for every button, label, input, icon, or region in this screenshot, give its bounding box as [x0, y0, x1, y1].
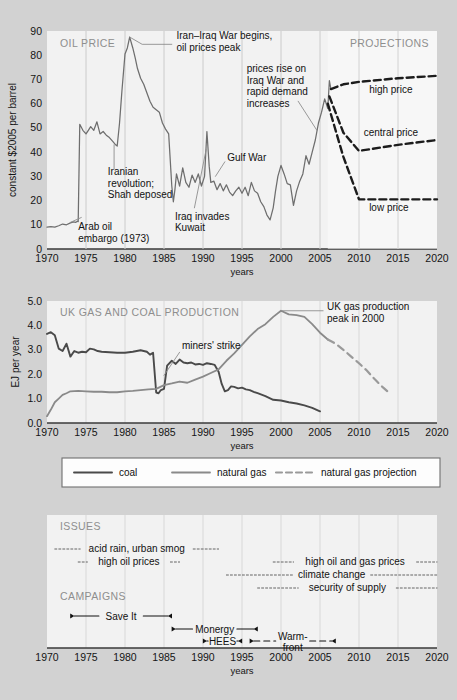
campaign-label-hees: HEES: [209, 636, 237, 647]
issue-label-security-of-supply: security of supply: [309, 582, 386, 593]
oil-price-x-axis-label: years: [230, 266, 253, 277]
issues-campaigns-panel-xtick-2005: 2005: [308, 651, 332, 663]
oil-price-panel-xtick-2020: 2020: [425, 252, 449, 264]
issues-campaigns-panel-xtick-1975: 1975: [74, 651, 98, 663]
issues-campaigns-panel-xtick-1970: 1970: [35, 651, 59, 663]
issues-campaigns-panel-xtick-2020: 2020: [425, 651, 449, 663]
prod-ytick-4.0: 4.0: [27, 319, 42, 331]
oil-price-panel-xtick-1985: 1985: [152, 252, 176, 264]
oil-ytick-20: 20: [30, 194, 42, 206]
uk-production-panel-xtick-2005: 2005: [308, 426, 332, 438]
annotation-central-price: central price: [364, 127, 419, 138]
oil-price-panel-xtick-1990: 1990: [191, 252, 215, 264]
issue-label-high-oil-prices: high oil prices: [98, 556, 159, 567]
oil-ytick-50: 50: [30, 121, 42, 133]
uk-production-panel-xtick-1975: 1975: [74, 426, 98, 438]
uk-production-panel-xtick-2010: 2010: [347, 426, 371, 438]
issues-campaigns-x-axis-label: years: [230, 665, 253, 676]
uk-production-x-axis-label: years: [230, 440, 253, 451]
prod-ytick-5.0: 5.0: [27, 295, 42, 307]
projection-region: [328, 31, 437, 249]
uk-production-y-axis-label: EJ per year: [10, 336, 21, 388]
uk-production-panel-xtick-1980: 1980: [113, 426, 137, 438]
issue-label-acid-rain-urban-smog: acid rain, urban smog: [89, 543, 185, 554]
annotation-low-price: low price: [369, 202, 409, 213]
projections-label: PROJECTIONS: [350, 37, 429, 49]
issues-campaigns-panel-xtick-1985: 1985: [152, 651, 176, 663]
oil-ytick-80: 80: [30, 49, 42, 61]
legend-label-natural-gas-projection: natural gas projection: [321, 467, 417, 478]
annotation-miners-strike: miners' strike: [182, 340, 241, 351]
uk-production-panel-xtick-1970: 1970: [35, 426, 59, 438]
prod-ytick-1.0: 1.0: [27, 392, 42, 404]
oil-ytick-10: 10: [30, 218, 42, 230]
oil-price-panel-xtick-2005: 2005: [308, 252, 332, 264]
uk-production-panel-xtick-1990: 1990: [191, 426, 215, 438]
uk-production-panel-xtick-1995: 1995: [230, 426, 254, 438]
uk-production-panel-xtick-2015: 2015: [386, 426, 410, 438]
figure-root: 0102030405060708090constant $2005 per ba…: [0, 0, 457, 700]
oil-price-y-axis-label: constant $2005 per barrel: [7, 83, 18, 197]
issues-campaigns-panel-xtick-1980: 1980: [113, 651, 137, 663]
campaign-label-monergy: Monergy: [195, 624, 234, 635]
oil-ytick-70: 70: [30, 73, 42, 85]
oil-price-panel-xtick-2015: 2015: [386, 252, 410, 264]
issues-campaigns-panel-xtick-1995: 1995: [230, 651, 254, 663]
oil-ytick-40: 40: [30, 146, 42, 158]
issues-campaigns-panel-xtick-1990: 1990: [191, 651, 215, 663]
oil-price-panel-xtick-2010: 2010: [347, 252, 371, 264]
annotation-gulf-war: Gulf War: [227, 152, 267, 163]
uk-production-panel-xtick-2000: 2000: [269, 426, 293, 438]
oil-ytick-30: 30: [30, 170, 42, 182]
oil-ytick-60: 60: [30, 97, 42, 109]
oil-price-panel-xtick-1975: 1975: [74, 252, 98, 264]
legend-label-coal: coal: [119, 467, 137, 478]
uk-production-panel-title: UK GAS AND COAL PRODUCTION: [60, 306, 239, 318]
issue-label-climate-change: climate change: [298, 569, 366, 580]
uk-production-panel-xtick-2020: 2020: [425, 426, 449, 438]
issue-label-high-oil-and-gas-prices: high oil and gas prices: [305, 556, 405, 567]
campaign-label-save-it: Save It: [106, 611, 137, 622]
annotation-high-price: high price: [369, 84, 413, 95]
oil-price-panel-xtick-1995: 1995: [230, 252, 254, 264]
prod-ytick-2.0: 2.0: [27, 368, 42, 380]
issues-campaigns-panel-xtick-2015: 2015: [386, 651, 410, 663]
uk-production-panel-xtick-1985: 1985: [152, 426, 176, 438]
oil-price-panel-xtick-2000: 2000: [269, 252, 293, 264]
issues-campaigns-panel-xtick-2010: 2010: [347, 651, 371, 663]
issues-title: ISSUES: [60, 520, 101, 532]
oil-price-panel-title: OIL PRICE: [60, 37, 115, 49]
oil-ytick-90: 90: [30, 25, 42, 37]
prod-ytick-3.0: 3.0: [27, 343, 42, 355]
three-panel-figure: 0102030405060708090constant $2005 per ba…: [0, 0, 457, 700]
legend-label-natural-gas: natural gas: [217, 467, 266, 478]
oil-price-panel-xtick-1980: 1980: [113, 252, 137, 264]
oil-price-panel-xtick-1970: 1970: [35, 252, 59, 264]
campaigns-title: CAMPAIGNS: [60, 590, 126, 602]
